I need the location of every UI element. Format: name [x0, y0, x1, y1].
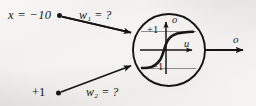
- input-value-x1: x = −10: [8, 9, 51, 22]
- tick-label-minus-one-text: −1: [152, 61, 163, 72]
- neuron-diagram-figure: x = −10 w₁ = ? +1 w₂ = ? o u +1 −1 o: [0, 0, 256, 106]
- weight-label-w2-text: w₂ = ?: [86, 85, 118, 99]
- input-value-bias-text: +1: [32, 85, 45, 99]
- output-label-o: o: [233, 34, 239, 45]
- axis-label-u: u: [184, 39, 189, 50]
- output-label-o-text: o: [233, 33, 239, 45]
- axis-label-o-text: o: [172, 14, 177, 25]
- weight-label-w1: w₁ = ?: [79, 9, 111, 21]
- axis-label-u-text: u: [184, 38, 189, 49]
- tick-label-plus-one: +1: [147, 25, 158, 36]
- tick-label-minus-one: −1: [152, 62, 163, 73]
- weight-label-w2: w₂ = ?: [86, 86, 118, 98]
- input-dot-bias: [56, 91, 61, 96]
- input-value-bias: +1: [32, 86, 45, 99]
- tick-label-plus-one-text: +1: [147, 24, 158, 35]
- input-dot-x1: [57, 13, 62, 18]
- input-value-x1-text: x = −10: [8, 8, 51, 22]
- axis-label-o: o: [172, 15, 177, 26]
- weight-label-w1-text: w₁ = ?: [79, 8, 111, 22]
